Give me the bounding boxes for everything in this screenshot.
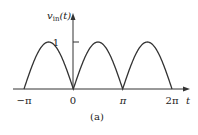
x-tick-label-neg-pi: −π	[17, 95, 32, 106]
y-tick-label: 1	[53, 37, 59, 48]
figure-caption: (a)	[90, 111, 104, 122]
x-tick-label-pi: π	[119, 95, 127, 106]
waveform-curve	[24, 42, 172, 89]
rectified-sine-figure: 1 vin(t) −π 0 π 2π t (a)	[0, 0, 198, 135]
y-axis-label: vin(t)	[47, 10, 71, 23]
x-tick-label-two-pi: 2π	[166, 95, 179, 106]
x-axis-arrow-icon	[183, 87, 190, 92]
y-axis-arrow-icon	[71, 13, 76, 20]
x-tick-label-zero: 0	[70, 95, 76, 106]
y-axis-label-arg: (t)	[59, 10, 71, 21]
x-axis-label: t	[186, 95, 191, 106]
